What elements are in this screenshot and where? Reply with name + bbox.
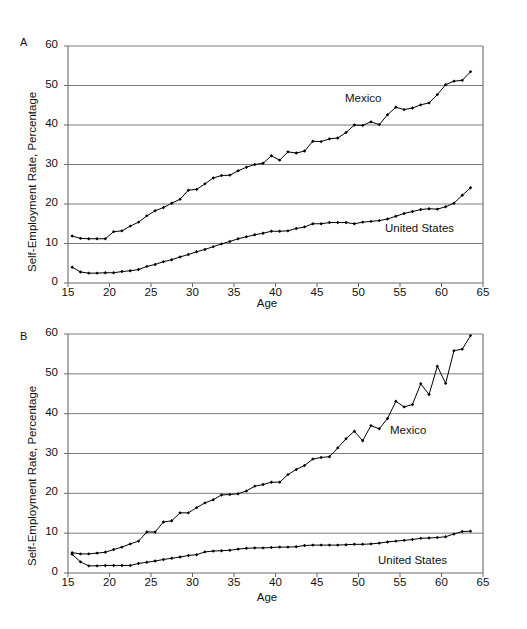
- data-point: [253, 233, 256, 236]
- data-point: [220, 549, 223, 552]
- data-point: [104, 551, 107, 554]
- x-tick-label-50: 50: [347, 286, 371, 298]
- data-point: [436, 207, 439, 210]
- data-point: [120, 564, 123, 567]
- data-point: [394, 215, 397, 218]
- data-point: [87, 564, 90, 567]
- data-point: [120, 270, 123, 273]
- x-tick-label-25: 25: [139, 576, 163, 588]
- panel-label-b: B: [20, 330, 28, 342]
- data-point: [187, 554, 190, 557]
- series-line-mexico: [72, 336, 470, 554]
- data-point: [162, 260, 165, 263]
- data-point: [228, 240, 231, 243]
- data-point: [378, 219, 381, 222]
- data-point: [253, 546, 256, 549]
- data-point: [452, 349, 455, 352]
- data-point: [369, 120, 372, 123]
- data-point: [411, 106, 414, 109]
- x-tick-label-20: 20: [98, 286, 122, 298]
- data-point: [270, 546, 273, 549]
- panel-a-series-label-united-states: United States: [385, 222, 454, 234]
- data-point: [469, 529, 472, 532]
- data-point: [402, 108, 405, 111]
- data-point: [95, 564, 98, 567]
- data-point: [145, 265, 148, 268]
- data-point: [419, 208, 422, 211]
- data-point: [278, 545, 281, 548]
- data-point: [153, 263, 156, 266]
- data-point: [236, 237, 239, 240]
- y-tick-label-0: 0: [36, 565, 58, 577]
- data-point: [344, 543, 347, 546]
- data-point: [303, 544, 306, 547]
- data-point: [444, 382, 447, 385]
- data-point: [104, 271, 107, 274]
- data-point: [187, 253, 190, 256]
- panel-a-plot: [0, 0, 527, 315]
- panel-b-x-axis-title: Age: [247, 591, 287, 603]
- data-point: [444, 205, 447, 208]
- data-point: [361, 220, 364, 223]
- x-tick-label-30: 30: [181, 286, 205, 298]
- data-point: [253, 163, 256, 166]
- data-point: [245, 166, 248, 169]
- data-point: [270, 230, 273, 233]
- x-tick-label-55: 55: [388, 576, 412, 588]
- data-point: [195, 553, 198, 556]
- data-point: [236, 169, 239, 172]
- data-point: [153, 559, 156, 562]
- data-point: [112, 564, 115, 567]
- panel-a-series-label-mexico: Mexico: [345, 92, 381, 104]
- data-point: [87, 552, 90, 555]
- data-point: [295, 545, 298, 548]
- data-point: [303, 225, 306, 228]
- y-tick-label-10: 10: [36, 525, 58, 537]
- data-point: [311, 543, 314, 546]
- panel-label-a: A: [20, 36, 28, 48]
- data-point: [236, 547, 239, 550]
- panel-a: A Self-Employment Rate, Percentage Age M…: [0, 0, 527, 315]
- x-tick-label-35: 35: [222, 286, 246, 298]
- data-point: [137, 562, 140, 565]
- data-point: [344, 221, 347, 224]
- y-tick-label-40: 40: [36, 406, 58, 418]
- data-point: [419, 537, 422, 540]
- x-tick-label-40: 40: [264, 576, 288, 588]
- data-point: [170, 258, 173, 261]
- x-tick-label-55: 55: [388, 286, 412, 298]
- data-point: [95, 551, 98, 554]
- data-point: [120, 545, 123, 548]
- data-point: [328, 137, 331, 140]
- data-point: [87, 271, 90, 274]
- figure-two-panel-line-charts: A Self-Employment Rate, Percentage Age M…: [0, 0, 527, 629]
- data-point: [95, 271, 98, 274]
- data-point: [427, 207, 430, 210]
- data-point: [245, 547, 248, 550]
- data-point: [295, 227, 298, 230]
- data-point: [319, 140, 322, 143]
- data-point: [104, 564, 107, 567]
- data-point: [129, 269, 132, 272]
- data-point: [203, 550, 206, 553]
- data-point: [436, 365, 439, 368]
- y-tick-label-10: 10: [36, 236, 58, 248]
- x-tick-label-45: 45: [305, 286, 329, 298]
- x-tick-label-30: 30: [181, 576, 205, 588]
- data-point: [112, 271, 115, 274]
- data-point: [361, 124, 364, 127]
- data-point: [402, 212, 405, 215]
- data-point: [170, 557, 173, 560]
- y-tick-label-0: 0: [36, 275, 58, 287]
- data-point: [87, 237, 90, 240]
- data-point: [411, 210, 414, 213]
- data-point: [394, 539, 397, 542]
- y-tick-label-30: 30: [36, 157, 58, 169]
- y-tick-label-40: 40: [36, 117, 58, 129]
- data-point: [203, 248, 206, 251]
- x-tick-label-15: 15: [56, 286, 80, 298]
- data-point: [427, 536, 430, 539]
- data-point: [319, 543, 322, 546]
- x-tick-label-65: 65: [471, 286, 495, 298]
- y-tick-label-20: 20: [36, 196, 58, 208]
